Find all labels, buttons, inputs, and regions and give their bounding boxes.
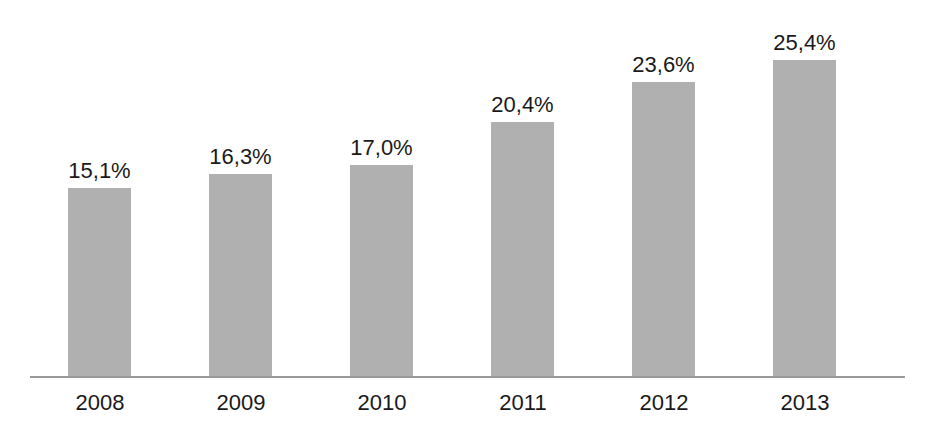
bar-group[interactable]: 17,0% (350, 165, 413, 377)
bar-group[interactable]: 23,6% (632, 82, 695, 377)
category-label-2008: 2008 (40, 392, 160, 414)
bar-rect[interactable] (350, 165, 413, 377)
category-label-2012: 2012 (604, 392, 724, 414)
bar-value-label: 23,6% (604, 54, 724, 76)
bar-value-label: 25,4% (745, 32, 865, 54)
category-label-2009: 2009 (181, 392, 301, 414)
category-label-2010: 2010 (322, 392, 442, 414)
bar-value-label: 15,1% (40, 160, 160, 182)
bar-value-label: 20,4% (463, 94, 583, 116)
bar-rect[interactable] (491, 122, 554, 377)
bar-rect[interactable] (209, 174, 272, 377)
category-label-2011: 2011 (463, 392, 583, 414)
bar-rect[interactable] (68, 188, 131, 377)
x-axis-line (30, 376, 905, 378)
category-label-2013: 2013 (745, 392, 865, 414)
bar-chart: 15,1% 16,3% 17,0% 20,4% 23,6% 25,4% 2008… (0, 0, 931, 445)
bar-group[interactable]: 20,4% (491, 122, 554, 377)
bar-rect[interactable] (632, 82, 695, 377)
category-axis: 2008 2009 2010 2011 2012 2013 (0, 392, 931, 432)
bar-value-label: 16,3% (181, 146, 301, 168)
bar-group[interactable]: 25,4% (773, 60, 836, 377)
bar-group[interactable]: 15,1% (68, 188, 131, 377)
bar-value-label: 17,0% (322, 137, 442, 159)
plot-area: 15,1% 16,3% 17,0% 20,4% 23,6% 25,4% (0, 0, 931, 377)
bar-group[interactable]: 16,3% (209, 174, 272, 377)
bar-rect[interactable] (773, 60, 836, 377)
